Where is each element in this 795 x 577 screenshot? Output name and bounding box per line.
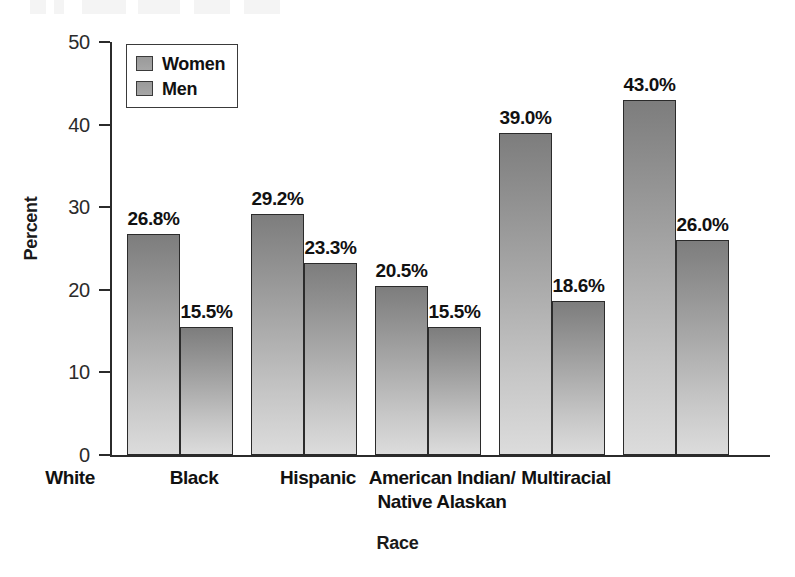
x-category-label-line2: Native Alaskan xyxy=(332,490,552,514)
bar-men-3: 18.6% xyxy=(552,301,605,455)
bar-value-label: 20.5% xyxy=(376,260,428,282)
y-tick-label: 50 xyxy=(34,32,90,52)
bar-value-label: 15.5% xyxy=(429,301,481,323)
y-tick-label: 40 xyxy=(34,115,90,135)
y-tick-label: 30 xyxy=(34,197,90,217)
bar-men-2: 15.5% xyxy=(428,327,481,455)
bar-value-label: 26.0% xyxy=(677,214,729,236)
bar-women-1: 29.2% xyxy=(251,214,304,455)
y-tick-label: 20 xyxy=(34,280,90,300)
y-tick-label: 10 xyxy=(34,362,90,382)
bar-value-label: 18.6% xyxy=(553,275,605,297)
x-category-label-4: Multiracial xyxy=(456,466,676,490)
legend-item-men: Men xyxy=(136,76,237,101)
bar-men-1: 23.3% xyxy=(304,263,357,455)
bar-women-2: 20.5% xyxy=(375,286,428,455)
x-category-label-line1: Multiracial xyxy=(456,466,676,490)
y-tick-mark xyxy=(99,289,110,291)
bar-value-label: 26.8% xyxy=(128,208,180,230)
bar-women-0: 26.8% xyxy=(127,234,180,455)
bar-women-3: 39.0% xyxy=(499,133,552,455)
legend-item-women: Women xyxy=(136,51,237,76)
bar-men-4: 26.0% xyxy=(676,240,729,455)
y-tick-label: 0 xyxy=(34,445,90,465)
x-axis-title: Race xyxy=(0,533,795,554)
y-tick-mark xyxy=(99,41,110,43)
bar-value-label: 39.0% xyxy=(500,107,552,129)
legend-swatch-women-icon xyxy=(136,56,153,71)
bar-value-label: 29.2% xyxy=(252,188,304,210)
bar-value-label: 43.0% xyxy=(624,74,676,96)
legend-label-women: Women xyxy=(162,55,225,73)
legend-label-men: Men xyxy=(162,80,197,98)
y-tick-mark xyxy=(99,124,110,126)
legend: Women Men xyxy=(126,44,238,108)
y-tick-mark xyxy=(99,454,110,456)
bar-value-label: 23.3% xyxy=(305,237,357,259)
bar-men-0: 15.5% xyxy=(180,327,233,455)
legend-swatch-men-icon xyxy=(136,81,153,96)
y-tick-mark xyxy=(99,371,110,373)
x-axis-line xyxy=(110,455,770,457)
bar-value-label: 15.5% xyxy=(181,301,233,323)
bar-women-4: 43.0% xyxy=(623,100,676,455)
y-axis-title: Percent xyxy=(21,174,42,284)
y-tick-mark xyxy=(99,206,110,208)
bar-chart: Percent 01020304050 26.8%15.5%29.2%23.3%… xyxy=(0,0,795,577)
